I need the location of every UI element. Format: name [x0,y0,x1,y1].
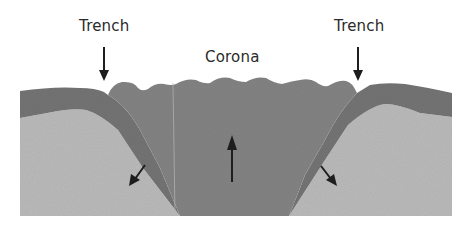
corona-cross-section-diagram [0,0,471,229]
trench-right-label: Trench [334,17,385,35]
corona-label: Corona [205,48,260,66]
trench-left-arrow [99,47,109,81]
trench-left-label: Trench [79,17,130,35]
trench-right-arrow [353,47,363,81]
